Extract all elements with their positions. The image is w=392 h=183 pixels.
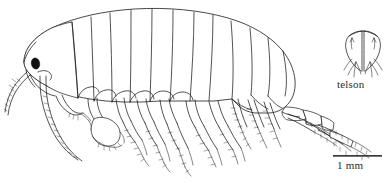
pereopod-7-setae	[220, 134, 236, 157]
gnathopod-1-setae	[69, 113, 78, 120]
antenna-1	[4, 72, 30, 115]
pereopod-4-setae	[146, 131, 166, 167]
telson-inset	[344, 31, 382, 77]
antenna-2-articles	[43, 96, 77, 158]
telson-label: telson	[337, 79, 364, 90]
scale-bar-label: 1 mm	[337, 160, 363, 171]
gnathopod-2	[88, 98, 124, 151]
gnathopod-1	[56, 95, 91, 130]
amphipod-illustration	[0, 0, 392, 183]
pereopod-3-setae	[124, 130, 144, 161]
pereopod-7	[209, 101, 245, 164]
pereopod-6	[186, 100, 222, 167]
pereopod-4	[137, 99, 170, 172]
pereopod-3	[116, 98, 149, 166]
pereopod-6-setae	[196, 135, 215, 165]
pereopod-5-setae	[168, 132, 189, 172]
pleopod-3-setae	[263, 111, 277, 139]
scale-bar	[333, 155, 382, 157]
antenna-1-articles	[4, 79, 20, 111]
head	[24, 22, 78, 98]
figure-canvas: telson 1 mm	[0, 0, 392, 183]
telson-spines	[350, 38, 376, 49]
telson-distal-setae	[344, 59, 382, 77]
pleopod-2-setae	[247, 109, 263, 142]
